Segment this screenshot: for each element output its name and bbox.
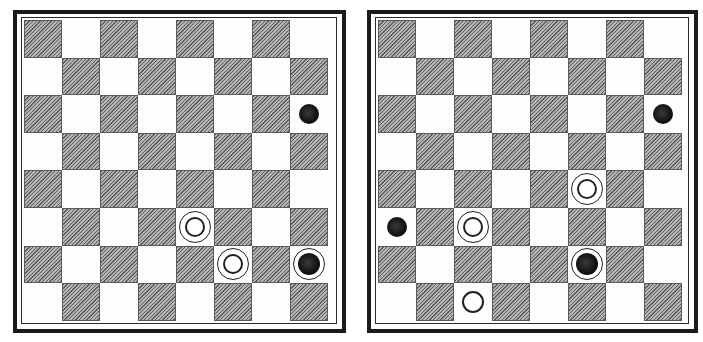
dark-square (24, 20, 62, 58)
black-king-piece (293, 248, 325, 280)
black-man-piece (299, 104, 319, 124)
black-king-piece (571, 248, 603, 280)
dark-square (416, 133, 454, 171)
board-grid (378, 20, 682, 321)
light-square (568, 20, 606, 58)
light-square (138, 246, 176, 284)
dark-square (176, 20, 214, 58)
dark-square (454, 95, 492, 133)
dark-square (644, 208, 682, 246)
dark-square (492, 58, 530, 96)
light-square (644, 20, 682, 58)
dark-square (530, 170, 568, 208)
dark-square (62, 283, 100, 321)
dark-square (454, 246, 492, 284)
dark-square (492, 133, 530, 171)
light-square (492, 170, 530, 208)
light-square (100, 283, 138, 321)
dark-square (644, 58, 682, 96)
dark-square (606, 170, 644, 208)
light-square (138, 170, 176, 208)
dark-square (214, 208, 252, 246)
dark-square (568, 133, 606, 171)
dark-square (176, 95, 214, 133)
dark-square (568, 283, 606, 321)
light-square (454, 133, 492, 171)
light-square (138, 95, 176, 133)
light-square (62, 20, 100, 58)
dark-square (378, 170, 416, 208)
light-square (492, 20, 530, 58)
dark-square (252, 20, 290, 58)
light-square (24, 133, 62, 171)
light-square (606, 58, 644, 96)
dark-square (416, 208, 454, 246)
dark-square (24, 170, 62, 208)
dark-square (252, 246, 290, 284)
dark-square (100, 246, 138, 284)
light-square (62, 246, 100, 284)
white-king-piece (179, 211, 211, 243)
light-square (606, 208, 644, 246)
light-square (644, 170, 682, 208)
dark-square (176, 170, 214, 208)
light-square (100, 208, 138, 246)
dark-square (214, 283, 252, 321)
light-square (416, 170, 454, 208)
dark-square (100, 170, 138, 208)
dark-square (138, 208, 176, 246)
dark-square (290, 133, 328, 171)
light-square (138, 20, 176, 58)
dark-square (416, 58, 454, 96)
light-square (214, 170, 252, 208)
light-square (606, 283, 644, 321)
light-square (290, 246, 328, 284)
light-square (24, 58, 62, 96)
white-king-piece (217, 248, 249, 280)
light-square (176, 208, 214, 246)
dark-square (214, 133, 252, 171)
light-square (416, 20, 454, 58)
light-square (214, 95, 252, 133)
board-grid (24, 20, 328, 321)
light-square (416, 95, 454, 133)
dark-square (378, 20, 416, 58)
dark-square (290, 58, 328, 96)
white-king-piece (571, 173, 603, 205)
light-square (378, 58, 416, 96)
light-square (378, 208, 416, 246)
diagram-stage (0, 0, 703, 342)
light-square (454, 208, 492, 246)
dark-square (252, 95, 290, 133)
dark-square (100, 20, 138, 58)
light-square (252, 58, 290, 96)
light-square (530, 58, 568, 96)
light-square (100, 133, 138, 171)
light-square (454, 58, 492, 96)
dark-square (492, 283, 530, 321)
light-square (252, 133, 290, 171)
dark-square (138, 133, 176, 171)
white-king-piece (457, 211, 489, 243)
light-square (62, 170, 100, 208)
dark-square (290, 208, 328, 246)
light-square (568, 246, 606, 284)
light-square (176, 133, 214, 171)
dark-square (606, 95, 644, 133)
light-square (378, 283, 416, 321)
dark-square (644, 133, 682, 171)
light-square (252, 283, 290, 321)
dark-square (214, 58, 252, 96)
dark-square (138, 58, 176, 96)
light-square (290, 95, 328, 133)
light-square (530, 133, 568, 171)
dark-square (568, 58, 606, 96)
light-square (530, 208, 568, 246)
dark-square (530, 95, 568, 133)
light-square (568, 170, 606, 208)
light-square (176, 58, 214, 96)
light-square (530, 283, 568, 321)
light-square (290, 170, 328, 208)
dark-square (62, 208, 100, 246)
light-square (214, 246, 252, 284)
